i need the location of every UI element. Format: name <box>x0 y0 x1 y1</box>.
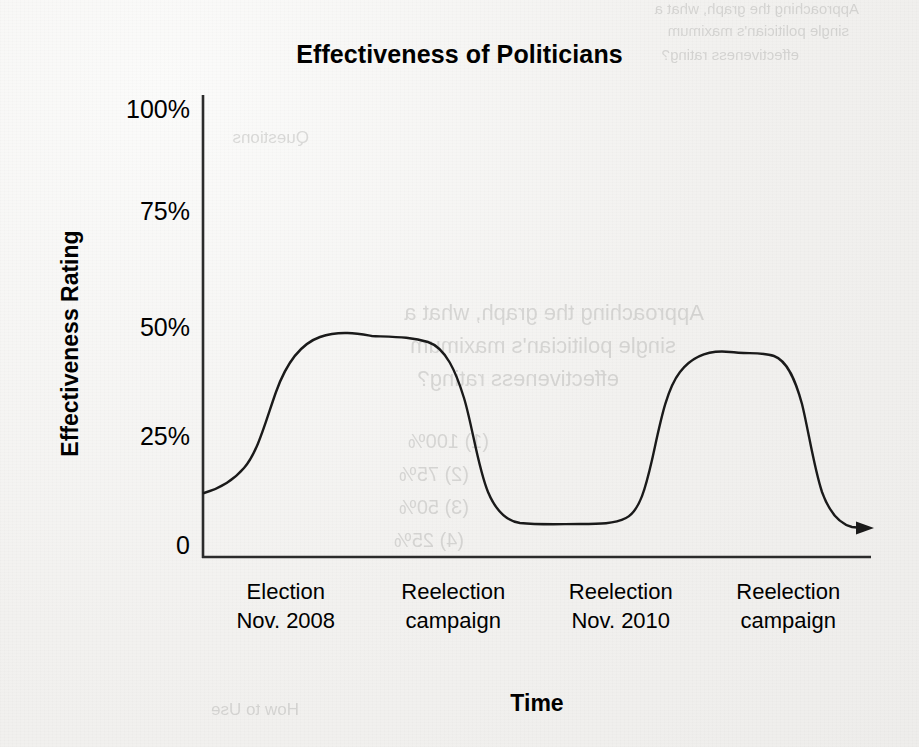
x-tick-line1: Reelection <box>370 578 538 607</box>
x-tick-label: Reelection campaign <box>370 578 538 635</box>
x-tick-line1: Election <box>202 578 370 607</box>
chart-figure: Effectiveness of Politicians Effectivene… <box>0 0 919 747</box>
x-tick-line2: Nov. 2010 <box>537 607 705 636</box>
x-tick-line2: campaign <box>370 607 538 636</box>
x-tick-label: Reelection campaign <box>705 578 873 635</box>
x-tick-line1: Reelection <box>705 578 873 607</box>
x-tick-line2: campaign <box>705 607 873 636</box>
x-tick-label: Election Nov. 2008 <box>202 578 370 635</box>
x-axis-label: Time <box>202 690 872 717</box>
curve-arrowhead-icon <box>856 522 874 535</box>
x-axis-tick-labels: Election Nov. 2008 Reelection campaign R… <box>202 578 872 635</box>
data-curve <box>204 333 862 528</box>
x-tick-line2: Nov. 2008 <box>202 607 370 636</box>
x-tick-label: Reelection Nov. 2010 <box>537 578 705 635</box>
x-tick-line1: Reelection <box>537 578 705 607</box>
